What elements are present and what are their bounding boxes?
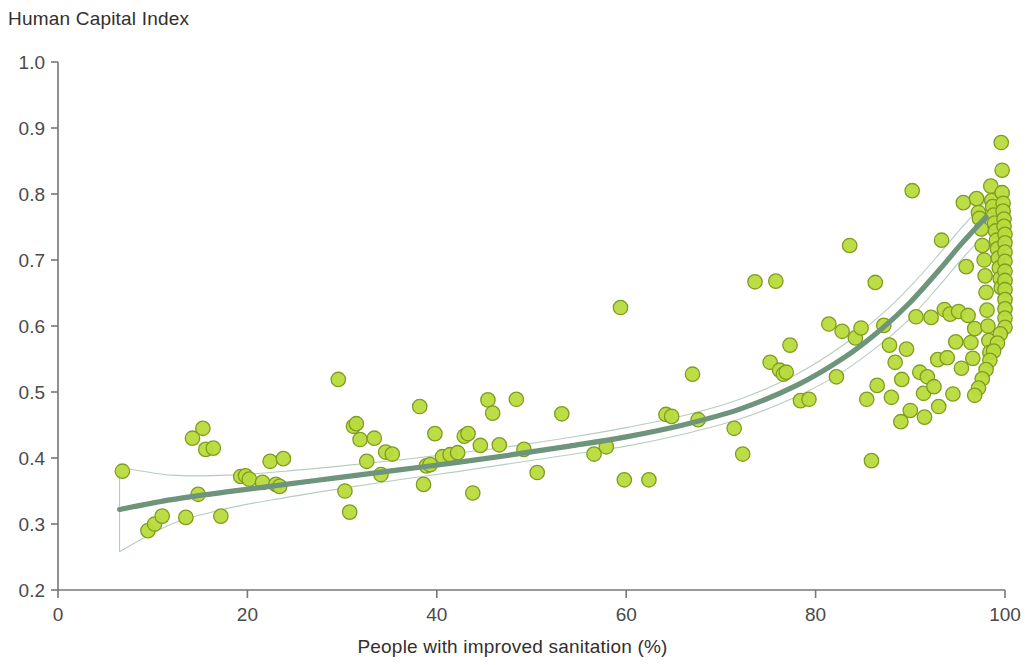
scatter-point	[179, 510, 193, 524]
scatter-point	[995, 163, 1009, 177]
scatter-point	[155, 509, 169, 523]
scatter-point	[961, 308, 975, 322]
x-axis-tick-label: 20	[237, 604, 258, 625]
scatter-point	[642, 473, 656, 487]
scatter-point	[473, 438, 487, 452]
y-axis-tick-label: 0.2	[19, 580, 45, 601]
scatter-point	[466, 486, 480, 500]
scatter-point	[276, 451, 290, 465]
scatter-point	[854, 321, 868, 335]
scatter-point	[428, 426, 442, 440]
y-axis-tick-label: 0.8	[19, 184, 45, 205]
scatter-point	[617, 473, 631, 487]
scatter-point	[967, 388, 981, 402]
scatter-point	[385, 447, 399, 461]
scatter-point	[802, 392, 816, 406]
scatter-point	[905, 184, 919, 198]
scatter-plot: 0.20.30.40.50.60.70.80.91.0020406080100	[0, 0, 1025, 665]
scatter-point	[903, 403, 917, 417]
scatter-point	[932, 399, 946, 413]
scatter-point	[966, 351, 980, 365]
scatter-point	[416, 477, 430, 491]
scatter-point	[685, 367, 699, 381]
scatter-point	[954, 361, 968, 375]
scatter-point	[884, 390, 898, 404]
scatter-point	[979, 285, 993, 299]
scatter-point	[461, 426, 475, 440]
scatter-point	[115, 464, 129, 478]
x-axis-tick-label: 60	[616, 604, 637, 625]
x-axis-label: People with improved sanitation (%)	[0, 636, 1025, 658]
scatter-point	[263, 454, 277, 468]
scatter-point	[214, 509, 228, 523]
y-axis-tick-label: 1.0	[19, 52, 45, 73]
scatter-point	[242, 472, 256, 486]
x-axis-tick-label: 80	[805, 604, 826, 625]
scatter-point	[964, 335, 978, 349]
scatter-point	[822, 317, 836, 331]
scatter-point	[727, 421, 741, 435]
scatter-point	[413, 399, 427, 413]
scatter-point	[779, 365, 793, 379]
scatter-point	[959, 259, 973, 273]
scatter-point	[450, 446, 464, 460]
scatter-point	[555, 407, 569, 421]
confidence-band-lower	[120, 234, 987, 552]
y-axis-tick-label: 0.5	[19, 382, 45, 403]
scatter-point	[980, 303, 994, 317]
scatter-point	[978, 269, 992, 283]
scatter-point	[338, 484, 352, 498]
scatter-point	[481, 393, 495, 407]
scatter-point	[748, 275, 762, 289]
y-axis-tick-label: 0.3	[19, 514, 45, 535]
scatter-point	[829, 370, 843, 384]
scatter-point	[485, 406, 499, 420]
scatter-point	[342, 505, 356, 519]
scatter-point	[909, 310, 923, 324]
scatter-point	[835, 324, 849, 338]
scatter-point	[899, 342, 913, 356]
chart-figure: Human Capital Index 0.20.30.40.50.60.70.…	[0, 0, 1025, 665]
scatter-point	[360, 454, 374, 468]
x-axis-tick-label: 40	[426, 604, 447, 625]
scatter-point	[956, 195, 970, 209]
x-axis-tick-label: 100	[989, 604, 1021, 625]
scatter-point	[917, 410, 931, 424]
scatter-point	[967, 321, 981, 335]
scatter-point	[492, 438, 506, 452]
scatter-point	[934, 233, 948, 247]
scatter-point	[353, 432, 367, 446]
scatter-point	[530, 465, 544, 479]
x-axis-tick-label: 0	[53, 604, 64, 625]
scatter-point	[924, 310, 938, 324]
scatter-point	[994, 135, 1008, 149]
scatter-point	[864, 453, 878, 467]
scatter-point	[613, 300, 627, 314]
scatter-point	[888, 355, 902, 369]
scatter-point	[735, 447, 749, 461]
scatter-point	[860, 392, 874, 406]
scatter-point	[868, 275, 882, 289]
scatter-point	[882, 338, 896, 352]
y-axis-tick-label: 0.7	[19, 250, 45, 271]
scatter-point	[196, 421, 210, 435]
scatter-point	[895, 372, 909, 386]
y-axis-tick-label: 0.9	[19, 118, 45, 139]
scatter-point	[367, 431, 381, 445]
scatter-point	[940, 350, 954, 364]
y-axis-tick-label: 0.4	[19, 448, 46, 469]
scatter-point	[842, 238, 856, 252]
scatter-point	[769, 274, 783, 288]
scatter-point	[927, 380, 941, 394]
scatter-point	[331, 372, 345, 386]
scatter-point	[975, 238, 989, 252]
scatter-point	[783, 338, 797, 352]
scatter-point	[349, 416, 363, 430]
scatter-point	[206, 441, 220, 455]
scatter-point	[946, 387, 960, 401]
y-axis-tick-label: 0.6	[19, 316, 45, 337]
scatter-point	[870, 378, 884, 392]
confidence-band-fill	[120, 201, 987, 552]
scatter-point	[949, 335, 963, 349]
scatter-point	[509, 392, 523, 406]
